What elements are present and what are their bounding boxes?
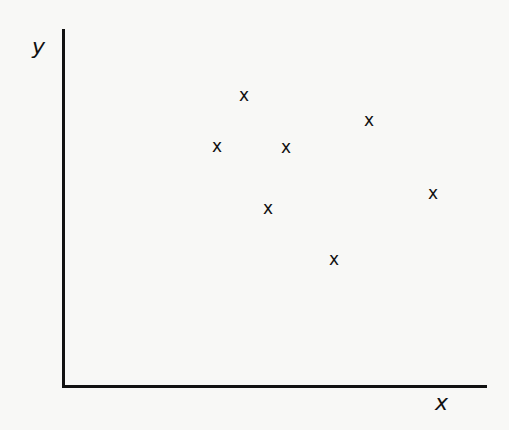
data-point-marker: x	[212, 138, 222, 155]
x-axis-label: x	[435, 392, 448, 414]
data-point-marker: x	[281, 139, 291, 156]
data-point-marker: x	[263, 200, 273, 217]
data-point-marker: x	[239, 87, 249, 104]
scatter-plot: y x xxxxxxx	[0, 0, 509, 430]
data-point-marker: x	[364, 112, 374, 129]
y-axis-line	[62, 29, 65, 388]
data-point-marker: x	[428, 185, 438, 202]
data-point-marker: x	[329, 251, 339, 268]
x-axis-line	[62, 385, 487, 388]
y-axis-label: y	[32, 36, 45, 58]
